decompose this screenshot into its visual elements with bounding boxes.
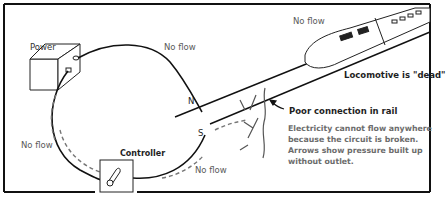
- power-label: Power: [30, 43, 56, 52]
- poor-connection-label: Poor connection in rail: [289, 107, 397, 116]
- rail-n-label: N: [188, 97, 194, 106]
- no-flow-left-label: No flow: [21, 141, 53, 150]
- no-flow-bottom-label: No flow: [195, 166, 227, 175]
- note-line: Arrows show pressure built up: [288, 145, 428, 156]
- note-line: because the circuit is broken.: [288, 134, 428, 145]
- explanation-note: Electricity cannot flow anywhere because…: [288, 123, 428, 167]
- locomotive-label: Locomotive is "dead": [344, 71, 446, 80]
- controller-box-icon: [100, 160, 133, 192]
- rail-break-icon: [240, 88, 265, 158]
- no-flow-top-label: No flow: [164, 43, 196, 52]
- rail-s-label: S: [198, 129, 203, 138]
- pointer-arrow: [270, 100, 284, 109]
- note-line: without outlet.: [288, 156, 428, 167]
- note-line: Electricity cannot flow anywhere: [288, 123, 428, 134]
- controller-label: Controller: [120, 150, 165, 158]
- no-flow-train-label: No flow: [293, 17, 325, 26]
